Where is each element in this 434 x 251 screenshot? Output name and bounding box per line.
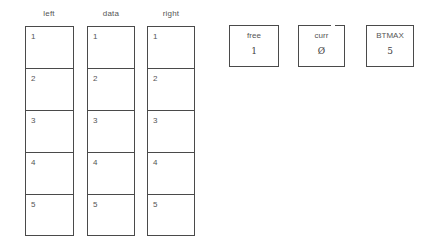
right-array-cell: 3 [148,111,194,153]
btmax-variable-value: 5 [367,46,413,56]
cell-index: 1 [31,32,35,41]
cell-index: 5 [93,200,97,209]
curr-variable-value: Ø [299,46,344,56]
left-array-cell: 4 [26,153,73,195]
left-array-cell: 2 [26,69,73,111]
data-array-cell: 2 [88,69,134,111]
left-array-label: left [24,9,74,18]
cell-index: 3 [31,116,35,125]
cell-index: 1 [93,32,97,41]
cell-index: 4 [93,158,97,167]
data-array: 1 2 3 4 5 [87,26,135,236]
left-array: 1 2 3 4 5 [25,26,74,236]
cell-index: 4 [31,158,35,167]
free-variable-box: free 1 [229,25,279,67]
top-border-gap [331,24,335,27]
right-array-cell: 2 [148,69,194,111]
cell-index: 3 [93,116,97,125]
right-array-cell: 1 [148,27,194,69]
data-array-cell: 3 [88,111,134,153]
data-array-cell: 4 [88,153,134,195]
data-array-cell: 1 [88,27,134,69]
cell-index: 3 [153,116,157,125]
right-array-cell: 5 [148,195,194,237]
cell-index: 1 [153,32,157,41]
curr-variable-box: curr Ø [298,25,345,67]
free-variable-name: free [230,31,278,40]
right-array-cell: 4 [148,153,194,195]
cell-index: 2 [31,74,35,83]
btmax-variable-name: BTMAX [367,31,413,40]
cell-index: 2 [93,74,97,83]
cell-index: 4 [153,158,157,167]
left-array-cell: 5 [26,195,73,237]
left-array-cell: 1 [26,27,73,69]
right-array: 1 2 3 4 5 [147,26,195,236]
cell-index: 2 [153,74,157,83]
left-array-cell: 3 [26,111,73,153]
btmax-variable-box: BTMAX 5 [366,25,414,67]
data-array-label: data [86,9,136,18]
cell-index: 5 [153,200,157,209]
free-variable-value: 1 [230,46,278,56]
data-array-cell: 5 [88,195,134,237]
cell-index: 5 [31,200,35,209]
curr-variable-name: curr [299,31,344,40]
right-array-label: right [146,9,196,18]
